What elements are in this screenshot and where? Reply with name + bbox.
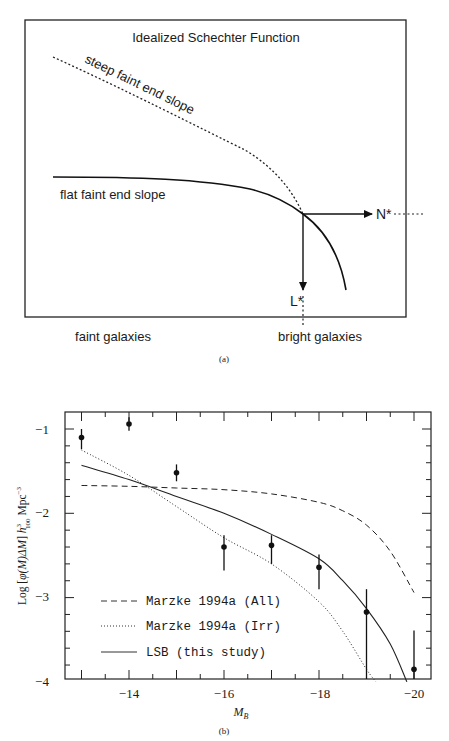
figure: Idealized Schechter Function steep faint… (0, 0, 449, 741)
legend-item-lsb: LSB (this study) (146, 646, 266, 660)
data-point (316, 564, 322, 570)
legend-item-all: Marzke 1994a (All) (146, 595, 281, 609)
panel-a-title: Idealized Schechter Function (132, 30, 300, 45)
axis-ticks (65, 412, 431, 679)
panel-a-frame (25, 20, 406, 317)
data-points (79, 417, 417, 679)
bright-galaxies-label: bright galaxies (278, 329, 362, 344)
panel-a: Idealized Schechter Function steep faint… (25, 20, 425, 364)
x-axis-label: MB (233, 705, 249, 721)
flat-slope-label: flat faint end slope (60, 187, 166, 202)
y-axis-label: Log [φ(M)ΔM] h3100 Mpc−3 (15, 486, 32, 605)
steep-slope-label: steep faint end slope (83, 51, 197, 117)
panel-b: −1 −2 −3 −4 −14 −16 −18 −20 MB Log [φ(M)… (15, 412, 431, 736)
y-tick-label: −4 (35, 674, 49, 689)
data-point (126, 421, 132, 427)
legend: Marzke 1994a (All) Marzke 1994a (Irr) LS… (101, 595, 281, 660)
faint-galaxies-label: faint galaxies (75, 329, 151, 344)
l-star-label: L* (290, 293, 304, 309)
y-tick-label: −1 (35, 422, 49, 437)
y-tick-label: −3 (35, 589, 49, 604)
x-tick-label: −16 (214, 686, 235, 701)
x-tick-label: −18 (310, 686, 330, 701)
panel-b-frame (65, 412, 431, 679)
y-tick-label: −2 (35, 505, 49, 520)
data-point (79, 435, 85, 441)
data-point (364, 609, 370, 615)
legend-item-irr: Marzke 1994a (Irr) (146, 620, 281, 634)
data-point (221, 544, 227, 550)
panel-a-caption: (a) (219, 354, 229, 364)
x-tick-label: −20 (404, 686, 424, 701)
n-star-label: N* (376, 206, 392, 222)
x-tick-label: −14 (119, 686, 140, 701)
marzke-all-curve (82, 485, 415, 592)
panel-b-caption: (b) (219, 726, 230, 736)
data-point (174, 470, 180, 476)
data-point (411, 666, 417, 672)
data-point (269, 543, 275, 549)
